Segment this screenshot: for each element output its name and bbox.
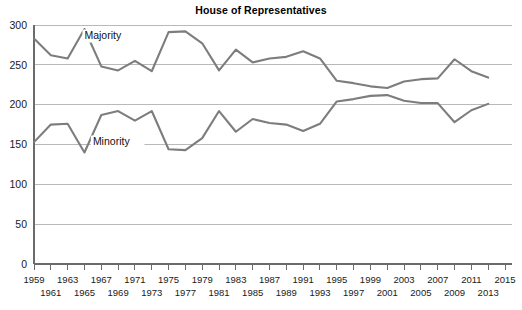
- x-tick-label-1991: 1991: [293, 274, 314, 285]
- x-tick-label-1989: 1989: [276, 287, 297, 298]
- x-tick-label-1971: 1971: [124, 274, 145, 285]
- x-tick-label-1963: 1963: [57, 274, 78, 285]
- x-tick-label-1977: 1977: [175, 287, 196, 298]
- x-tick-label-2015: 2015: [494, 274, 515, 285]
- x-tick-label-1997: 1997: [343, 287, 364, 298]
- x-tick-label-1985: 1985: [242, 287, 263, 298]
- x-tick-label-2013: 2013: [478, 287, 499, 298]
- y-tick-label-50: 50: [15, 218, 27, 230]
- x-tick-label-1979: 1979: [192, 274, 213, 285]
- x-tick-label-2001: 2001: [377, 287, 398, 298]
- line-chart-plot: 050100150200250300 195919611963196519671…: [0, 0, 522, 310]
- x-tick-label-1987: 1987: [259, 274, 280, 285]
- x-axis-tick-labels: 1959196119631965196719691971197319751977…: [23, 274, 515, 298]
- y-tick-label-300: 300: [9, 19, 27, 31]
- y-tick-label-150: 150: [9, 138, 27, 150]
- y-tick-label-0: 0: [21, 258, 27, 270]
- y-tick-label-250: 250: [9, 59, 27, 71]
- y-tick-label-100: 100: [9, 178, 27, 190]
- x-tick-label-2009: 2009: [444, 287, 465, 298]
- x-tick-label-1967: 1967: [91, 274, 112, 285]
- x-tick-label-1961: 1961: [40, 287, 61, 298]
- y-tick-label-200: 200: [9, 98, 27, 110]
- x-tick-label-2007: 2007: [427, 274, 448, 285]
- series-label-minority: Minority: [93, 135, 131, 147]
- x-tick-label-1995: 1995: [326, 274, 347, 285]
- x-tick-label-1965: 1965: [74, 287, 95, 298]
- x-tick-label-1981: 1981: [208, 287, 229, 298]
- x-tick-label-2003: 2003: [394, 274, 415, 285]
- x-tick-label-1959: 1959: [23, 274, 44, 285]
- x-tick-label-1999: 1999: [360, 274, 381, 285]
- x-tick-label-2011: 2011: [461, 274, 481, 285]
- x-tick-label-1983: 1983: [225, 274, 246, 285]
- series-label-majority: Majority: [84, 29, 122, 41]
- x-tick-label-2005: 2005: [410, 287, 431, 298]
- x-tick-label-1975: 1975: [158, 274, 179, 285]
- y-axis-tick-labels: 050100150200250300: [9, 19, 27, 270]
- chart-container: House of Representatives 050100150200250…: [0, 0, 522, 310]
- x-axis-tick-marks: [34, 264, 505, 270]
- x-tick-label-1969: 1969: [108, 287, 129, 298]
- x-tick-label-1973: 1973: [141, 287, 162, 298]
- x-tick-label-1993: 1993: [309, 287, 330, 298]
